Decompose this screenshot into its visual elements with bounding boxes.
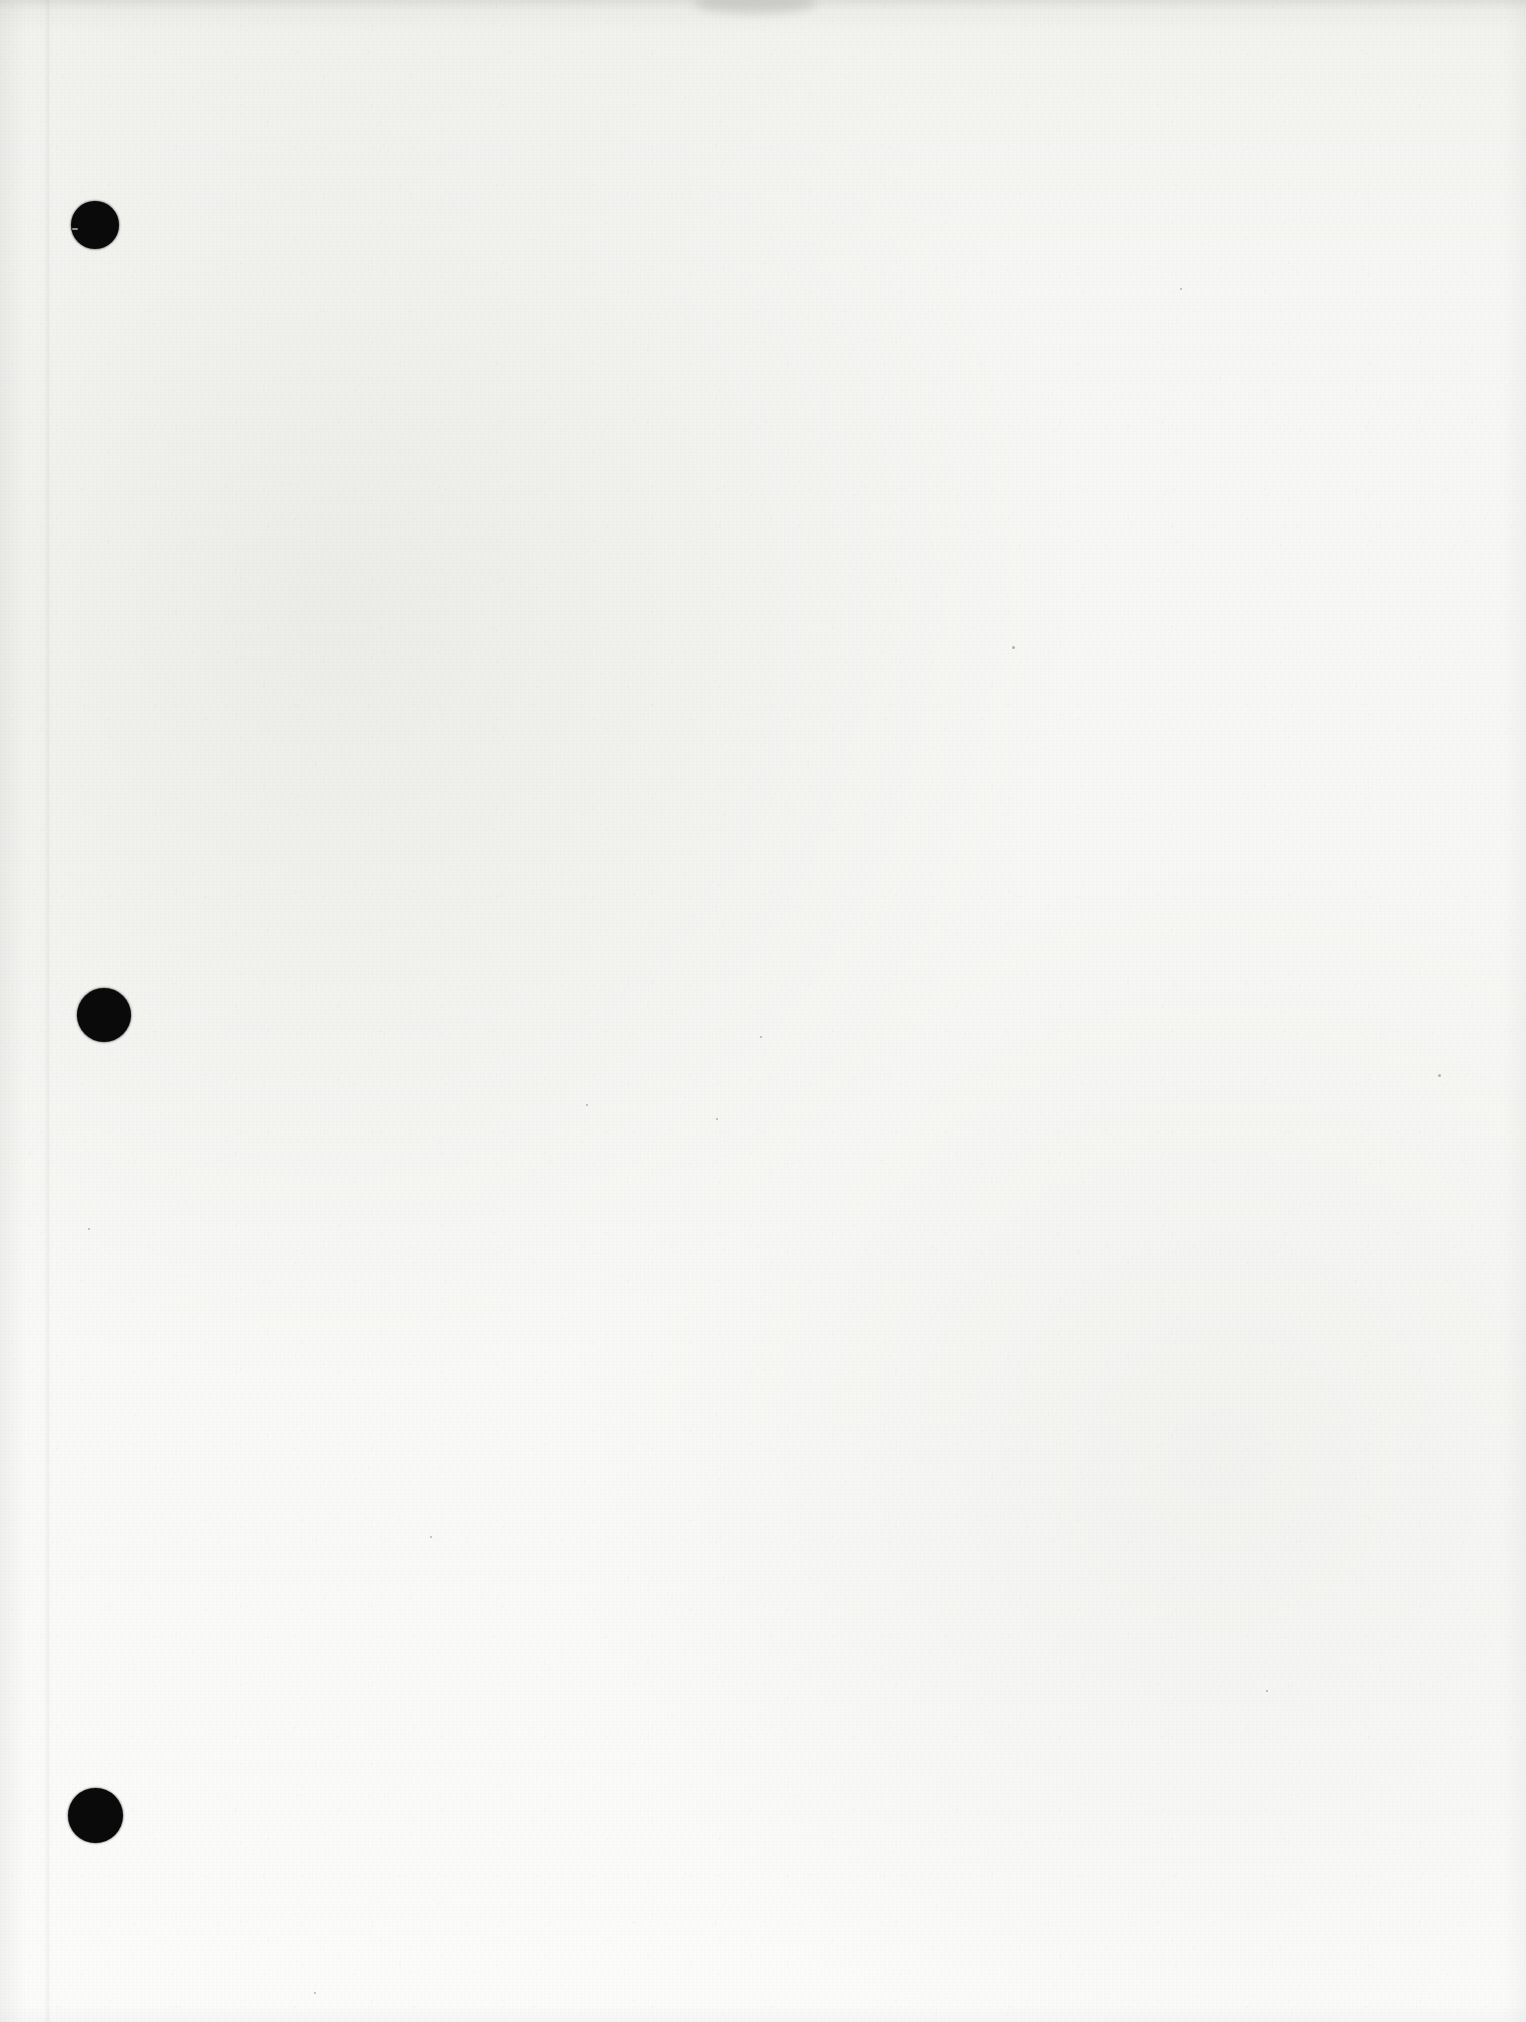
dust-speck	[1438, 1074, 1441, 1077]
dust-speck	[314, 1992, 316, 1994]
scanned-page	[0, 0, 1526, 2022]
page-text-content	[160, 120, 1436, 1902]
top-punch-hole	[71, 201, 119, 249]
dust-speck	[88, 1228, 90, 1230]
top-edge-smudge	[694, 0, 816, 14]
bottom-punch-hole	[68, 1788, 123, 1843]
vertical-fold-crease	[44, 0, 51, 2022]
middle-punch-hole	[77, 988, 131, 1042]
